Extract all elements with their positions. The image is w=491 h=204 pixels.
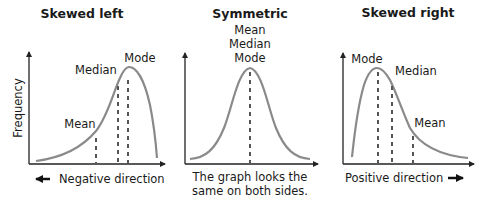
panel-skewed-right: Skewed right Mode Median Mean Positive d…: [343, 5, 474, 185]
mean-label: Mean: [234, 23, 265, 37]
median-label: Median: [395, 64, 437, 78]
direction-caption: Negative direction: [59, 172, 165, 186]
y-axis-label: Frequency: [11, 78, 25, 138]
direction-caption: Positive direction: [345, 171, 443, 185]
caption-line-1: The graph looks the: [192, 170, 308, 184]
panel-title: Symmetric: [212, 6, 288, 21]
mean-label: Mean: [414, 116, 445, 130]
distribution-shapes-diagram: Skewed left Frequency Mean Median Mode N…: [0, 0, 491, 204]
panel-title: Skewed right: [361, 5, 454, 20]
distribution-curve: [352, 68, 468, 158]
panel-skewed-left: Skewed left Frequency Mean Median Mode N…: [11, 6, 165, 186]
caption-line-2: same on both sides.: [192, 184, 308, 198]
mean-label: Mean: [64, 117, 95, 131]
median-label: Median: [229, 37, 271, 51]
panel-symmetric: Symmetric Mean Median Mode The graph loo…: [185, 6, 318, 198]
mode-label: Mode: [124, 51, 155, 65]
panel-title: Skewed left: [41, 6, 124, 21]
mode-label: Mode: [234, 51, 265, 65]
median-label: Median: [75, 63, 117, 77]
mode-label: Mode: [351, 52, 382, 66]
